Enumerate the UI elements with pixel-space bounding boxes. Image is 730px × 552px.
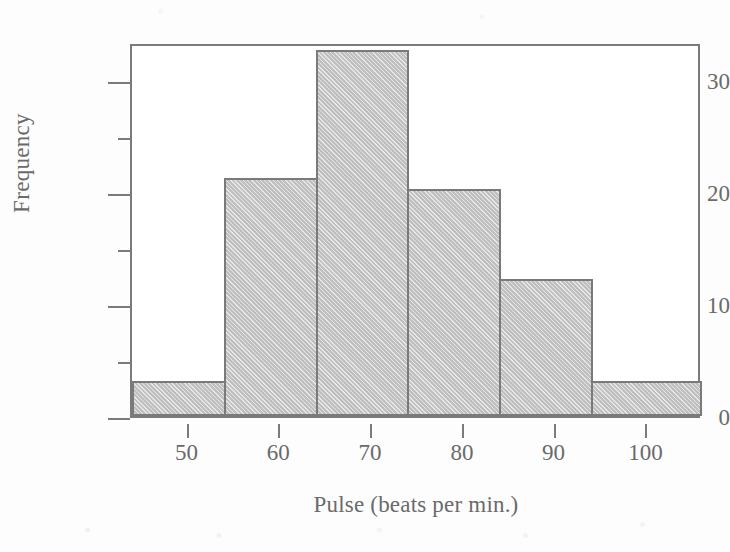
x-tick: [370, 424, 372, 438]
bars-layer: [132, 46, 698, 416]
y-tick-minor: [118, 138, 130, 140]
x-tick-label: 50: [147, 440, 227, 466]
histogram-bar: [407, 189, 501, 416]
y-tick-minor: [118, 250, 130, 252]
histogram-figure: Frequency 0 10 20 30 50 60 70: [0, 0, 730, 552]
x-tick: [278, 424, 280, 438]
histogram-bar: [499, 279, 593, 416]
histogram-bar: [132, 381, 226, 416]
x-axis-title: Pulse (beats per min.): [130, 492, 702, 518]
x-tick-label: 90: [514, 440, 594, 466]
x-tick: [187, 424, 189, 438]
y-axis-title: Frequency: [9, 63, 35, 263]
y-tick-major: [108, 194, 130, 196]
y-tick-minor: [118, 362, 130, 364]
x-tick-label: 70: [330, 440, 410, 466]
x-tick-label: 60: [238, 440, 318, 466]
x-tick-label: 80: [422, 440, 502, 466]
y-tick-major: [108, 306, 130, 308]
plot-area: [130, 44, 700, 418]
histogram-bar: [316, 50, 410, 416]
histogram-bar: [591, 381, 702, 416]
y-tick-major: [108, 82, 130, 84]
y-tick-major: [108, 418, 130, 420]
x-tick: [462, 424, 464, 438]
x-tick: [554, 424, 556, 438]
x-tick: [645, 424, 647, 438]
histogram-bar: [224, 178, 318, 416]
x-tick-label: 100: [605, 440, 685, 466]
